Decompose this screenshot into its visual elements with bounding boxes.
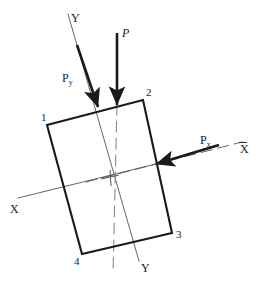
x-axis-principal-label: X [10,202,19,216]
force-arrow-Px-label: Px [200,133,211,149]
force-arrow-P-label: P [121,26,130,40]
force-diagram: 1234XXYYPPyPx [0,0,258,283]
y-axis-principal-label: Y [141,261,150,275]
corner-label-3: 3 [176,228,182,240]
forces-layer [77,33,219,164]
labels-layer: 1234XXYYPPyPx [10,11,249,275]
corner-label-2: 2 [146,86,152,98]
centroid-tick-vertical [110,170,111,186]
figure-root: 1234XXYYPPyPx [0,0,258,283]
x-axis-centroidal-label: X [240,142,249,156]
corner-label-4: 4 [74,255,80,267]
y-axis-label-top: Y [71,11,80,25]
force-arrow-Py-label: Py [62,71,73,87]
force-arrow-Py [77,45,98,107]
corner-label-1: 1 [41,111,47,123]
